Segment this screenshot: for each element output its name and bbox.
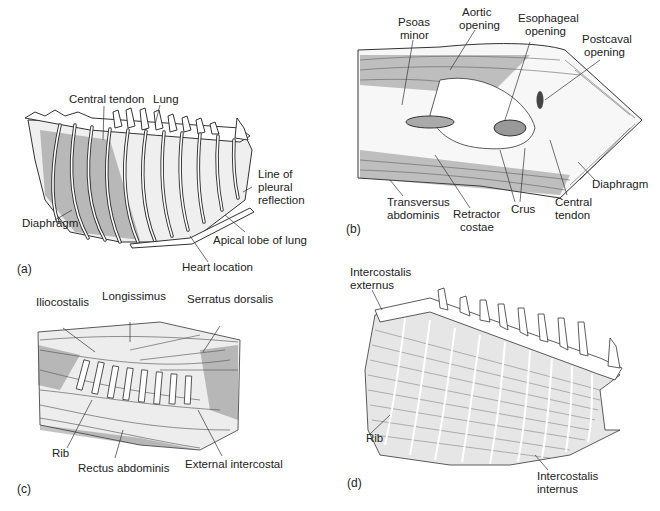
label-aortic-opening-2: opening	[459, 19, 500, 32]
label-intercostalis-internus-1: Intercostalis	[537, 470, 598, 483]
label-line-of-pleural-reflection-2: pleural	[258, 181, 293, 194]
trunk-muscles-illustration	[0, 290, 330, 511]
label-crus: Crus	[511, 203, 535, 216]
label-central-tendon-2: tendon	[555, 209, 590, 222]
label-iliocostalis: Iliocostalis	[36, 296, 89, 309]
label-postcaval-opening-2: opening	[584, 46, 625, 59]
label-esophageal-opening-2: opening	[525, 25, 566, 38]
label-heart-location: Heart location	[182, 261, 253, 274]
panel-c-trunk-muscles: Iliocostalis Longissimus Serratus dorsal…	[0, 290, 330, 511]
label-transversus-abdominis-1: Transversus	[387, 196, 450, 209]
label-intercostalis-internus-2: internus	[537, 483, 578, 496]
label-rib: Rib	[366, 432, 383, 445]
label-psoas-minor-2: minor	[400, 29, 429, 42]
label-intercostalis-externus-1: Intercostalis	[350, 266, 411, 279]
postcaval-opening-shape	[537, 91, 544, 109]
panel-b-diaphragm-view: Psoas minor Aortic opening Esophageal op…	[330, 0, 660, 250]
esophageal-opening-shape	[494, 120, 526, 136]
label-diaphragm: Diaphragm	[22, 217, 78, 230]
panel-label-a: (a)	[17, 262, 32, 276]
label-rectus-abdominis: Rectus abdominis	[78, 462, 169, 475]
label-longissimus: Longissimus	[102, 290, 166, 303]
panel-label-c: (c)	[17, 482, 31, 496]
label-central-tendon: Central tendon	[69, 93, 144, 106]
label-lung: Lung	[153, 93, 179, 106]
label-serratus-dorsalis: Serratus dorsalis	[187, 293, 273, 306]
label-retractor-costae-2: costae	[460, 221, 494, 234]
panel-label-b: (b)	[346, 222, 361, 236]
label-esophageal-opening-1: Esophageal	[518, 12, 579, 25]
panel-a-thorax-lateral: Central tendon Lung Line of pleural refl…	[0, 0, 330, 290]
panel-label-d: (d)	[347, 476, 362, 490]
label-aortic-opening-1: Aortic	[462, 6, 491, 19]
label-postcaval-opening-1: Postcaval	[582, 33, 632, 46]
label-apical-lobe-of-lung: Apical lobe of lung	[213, 234, 307, 247]
label-psoas-minor-1: Psoas	[398, 16, 430, 29]
label-line-of-pleural-reflection-1: Line of	[258, 168, 293, 181]
label-diaphragm: Diaphragm	[592, 178, 648, 191]
label-external-intercostal: External intercostal	[185, 458, 283, 471]
label-intercostalis-externus-2: externus	[350, 279, 394, 292]
label-retractor-costae-1: Retractor	[453, 208, 500, 221]
label-central-tendon-1: Central	[555, 196, 592, 209]
aortic-opening-shape	[406, 116, 454, 128]
label-transversus-abdominis-2: abdominis	[387, 209, 439, 222]
label-rib: Rib	[52, 447, 69, 460]
label-line-of-pleural-reflection-3: reflection	[258, 194, 305, 207]
panel-d-intercostal-muscles: Intercostalis externus Rib Intercostalis…	[330, 250, 660, 511]
